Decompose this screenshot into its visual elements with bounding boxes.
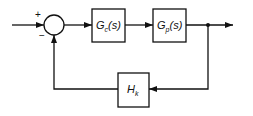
svg-text:Gc(s): Gc(s) (96, 19, 121, 33)
feedback-label-sub: k (135, 90, 139, 97)
block-diagram: + − Gc(s) Gp(s) Hk (0, 0, 253, 116)
feedback-block: Hk (118, 73, 149, 107)
minus-sign: − (39, 30, 45, 41)
controller-block: Gc(s) (92, 9, 125, 42)
summing-junction (44, 15, 64, 35)
plus-sign: + (35, 9, 41, 20)
feedback-label-main: H (127, 83, 135, 95)
plant-label-suffix: (s) (169, 19, 182, 31)
controller-label-suffix: (s) (108, 19, 121, 31)
plant-block: Gp(s) (153, 9, 186, 42)
feedback-path-left (54, 35, 118, 89)
